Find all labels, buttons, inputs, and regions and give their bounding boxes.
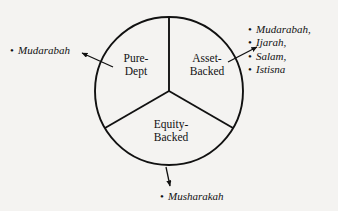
bullet-glyph: • xyxy=(248,50,256,63)
segment-label-equity-backed: Equity- Backed xyxy=(140,118,202,144)
callout-item-label: Musharakah xyxy=(168,190,224,202)
callout-item: •Mudarabah xyxy=(10,44,70,57)
callout-item-label: Mudarabah xyxy=(18,44,70,56)
callout-item-label: Mudarabah, xyxy=(256,23,311,35)
segment-label-line2: Backed xyxy=(140,131,202,144)
callout-item: •Salam, xyxy=(248,50,311,63)
bullet-glyph: • xyxy=(248,36,256,49)
callout-item: •Ijarah, xyxy=(248,36,311,49)
segment-label-line1: Asset- xyxy=(176,52,238,65)
bullet-glyph: • xyxy=(248,63,256,76)
bullet-glyph: • xyxy=(160,190,168,203)
bullet-glyph: • xyxy=(248,23,256,36)
callout-item-label: Istisna xyxy=(256,63,285,75)
arrow-to-left-callout xyxy=(82,53,113,67)
callout-item: •Mudarabah, xyxy=(248,23,311,36)
callout-pure-dept: •Mudarabah xyxy=(10,44,70,57)
callout-equity-backed: •Musharakah xyxy=(160,190,224,203)
callout-item: •Musharakah xyxy=(160,190,224,203)
callout-item: •Istisna xyxy=(248,63,311,76)
segment-label-line1: Equity- xyxy=(140,118,202,131)
bullet-glyph: • xyxy=(10,44,18,57)
segment-label-pure-dept: Pure- Dept xyxy=(110,52,162,78)
segment-label-line2: Backed xyxy=(176,65,238,78)
callout-item-label: Salam, xyxy=(256,50,286,62)
diagram-canvas: Pure- Dept Asset- Backed Equity- Backed … xyxy=(0,0,338,211)
segment-label-line2: Dept xyxy=(110,65,162,78)
segment-label-line1: Pure- xyxy=(110,52,162,65)
callout-item-label: Ijarah, xyxy=(256,36,286,48)
callout-asset-backed: •Mudarabah, •Ijarah, •Salam, •Istisna xyxy=(248,23,311,77)
segment-label-asset-backed: Asset- Backed xyxy=(176,52,238,78)
arrow-to-bottom-callout xyxy=(166,167,170,186)
